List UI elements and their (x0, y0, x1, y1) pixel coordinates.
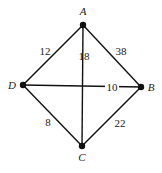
edge-a-d (23, 25, 83, 85)
vertex-c (79, 143, 85, 149)
edge-a-b (83, 25, 141, 87)
vertex-label-a: A (79, 5, 87, 17)
vertex-label-c: C (78, 151, 86, 163)
vertex-label-d: D (7, 79, 16, 91)
edge-d-c (23, 85, 82, 146)
edge-d-b (23, 85, 141, 87)
edge-weight-label: 18 (79, 50, 91, 62)
edge-b-c (82, 87, 141, 146)
edge-weight-label: 12 (40, 45, 51, 57)
vertex-b (138, 84, 144, 90)
edge-weight-label: 22 (115, 117, 126, 129)
vertex-labels: ABCD (7, 5, 155, 163)
edge-weight-label: 8 (45, 116, 51, 128)
vertex-d (20, 82, 26, 88)
vertex-a (80, 22, 86, 28)
edge-weight-label: 10 (107, 81, 119, 93)
weighted-graph-diagram: 12381810822 ABCD (0, 0, 162, 173)
edge-weight-label: 38 (116, 45, 128, 57)
vertex-label-b: B (148, 81, 155, 93)
